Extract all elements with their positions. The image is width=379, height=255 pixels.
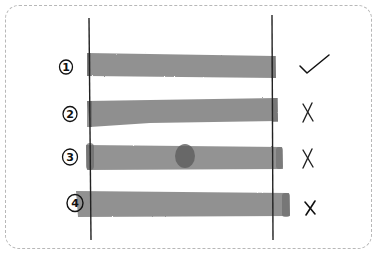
row-1	[87, 53, 276, 78]
cross-icon-row-3	[303, 149, 313, 168]
bar-1	[87, 53, 276, 78]
cross-icon-row-2	[303, 103, 313, 122]
label-3-text: 3	[66, 151, 74, 164]
label-1-text: 1	[62, 61, 70, 74]
bar-3-blob	[175, 144, 195, 168]
bar-2	[87, 98, 278, 127]
bar-4	[76, 191, 290, 217]
row-3	[86, 143, 283, 170]
label-4-text: 4	[71, 197, 79, 210]
sketch-canvas: 1 2 3 4	[0, 0, 379, 255]
label-3: 3	[63, 149, 78, 165]
cross-icon-row-4	[305, 201, 315, 215]
row-2	[87, 98, 278, 127]
label-1: 1	[60, 60, 73, 74]
row-4	[76, 191, 290, 217]
label-2: 2	[63, 107, 77, 122]
bar-4-right-edge	[282, 193, 290, 217]
check-icon	[300, 55, 329, 73]
label-2-text: 2	[66, 108, 74, 121]
bar-3-right-edge	[276, 147, 283, 169]
